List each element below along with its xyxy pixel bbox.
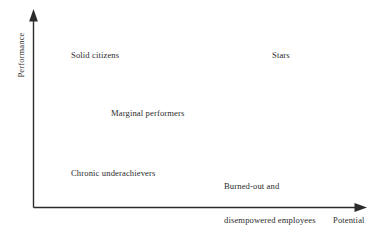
y-axis-title: Performance xyxy=(15,12,27,98)
axes-layer xyxy=(0,0,389,238)
quadrant-label-burned-out-line-1: Burned-out and xyxy=(224,181,316,192)
quadrant-label-stars: Stars xyxy=(272,50,290,61)
quadrant-label-marginal-performers: Marginal performers xyxy=(111,108,184,119)
performance-potential-matrix: Performance Potential Solid citizens Sta… xyxy=(0,0,389,238)
quadrant-label-chronic-underachievers: Chronic underachievers xyxy=(71,168,156,179)
quadrant-label-burned-out-line-2: disempowered employees xyxy=(224,215,316,226)
quadrant-label-burned-out-employees: Burned-out and disempowered employees xyxy=(224,158,316,238)
x-axis-arrowhead xyxy=(355,203,368,212)
x-axis-title: Potential xyxy=(333,215,365,225)
quadrant-label-solid-citizens: Solid citizens xyxy=(71,50,119,61)
y-axis-arrowhead xyxy=(29,9,38,22)
